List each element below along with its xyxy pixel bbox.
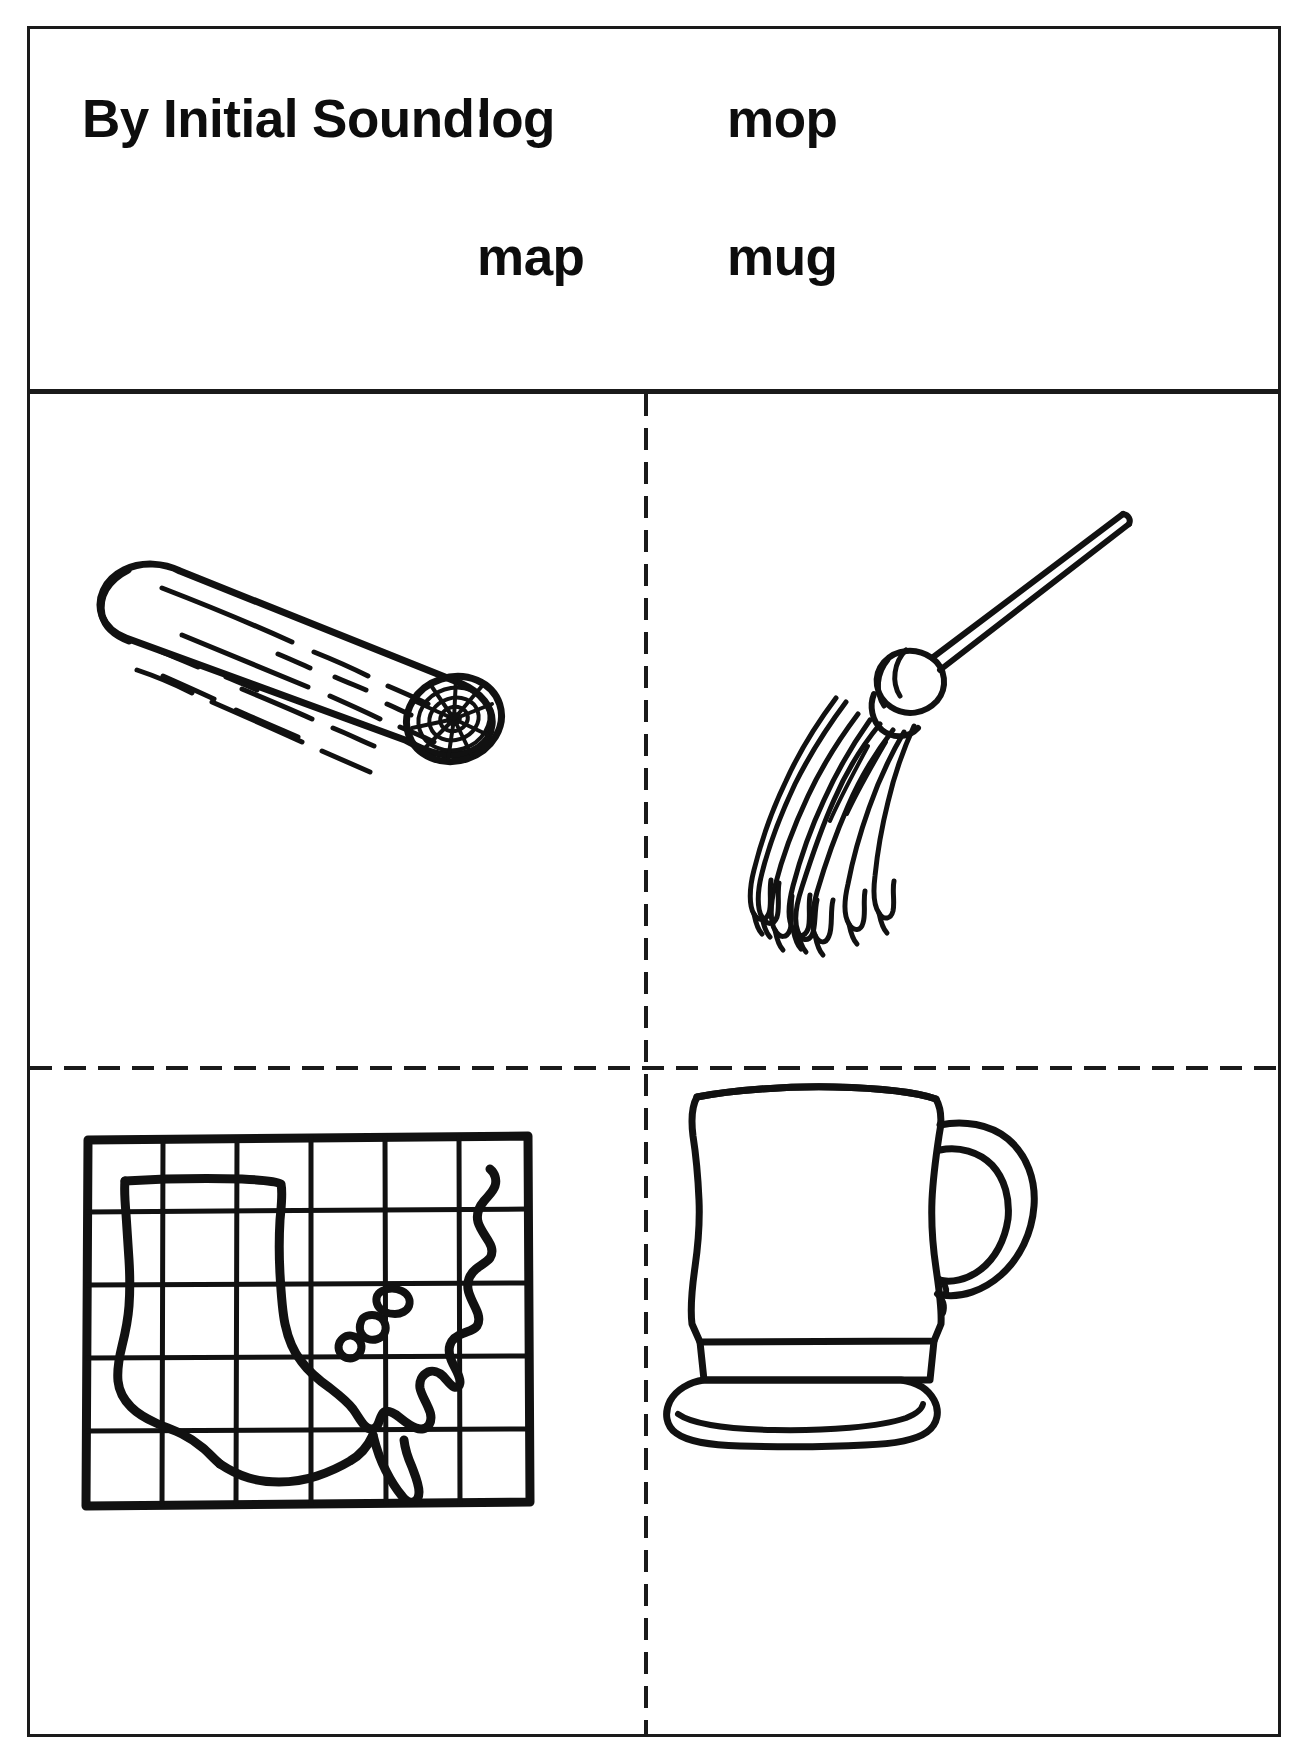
log-illustration: [30, 394, 644, 1066]
header-band: By Initial Sound: log mop map mug: [30, 29, 1278, 391]
word-label-mug: mug: [727, 230, 837, 283]
word-label-mop: mop: [727, 92, 837, 145]
map-illustration: [30, 1070, 644, 1735]
worksheet-page: By Initial Sound: log mop map mug: [0, 0, 1297, 1745]
picture-cell-mug: [648, 1070, 1278, 1735]
prompt-label: By Initial Sound:: [82, 91, 492, 148]
word-label-map: map: [477, 230, 584, 283]
picture-cell-mop: [648, 394, 1278, 1066]
mop-illustration: [648, 394, 1278, 1066]
picture-cell-map: [30, 1070, 644, 1735]
picture-cell-log: [30, 394, 644, 1066]
mug-illustration: [648, 1070, 1278, 1735]
word-label-log: log: [477, 92, 555, 145]
